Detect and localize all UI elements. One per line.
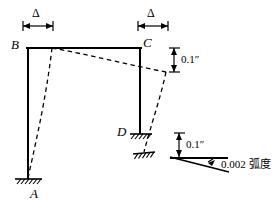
joint-label-a: A — [30, 187, 38, 200]
delta-left-arrow-end — [46, 23, 53, 29]
support-a-fixed — [15, 179, 42, 184]
delta-label-left: Δ — [32, 7, 40, 19]
settlement-c-arrow-up — [171, 48, 177, 55]
deformed-column-ab — [28, 48, 52, 178]
settlement-c-arrow-down — [171, 65, 177, 72]
original-frame-group — [27, 48, 141, 178]
delta-left-arrow-start — [23, 23, 30, 29]
frame-diagram-canvas — [0, 0, 278, 208]
dimension-settlement-d — [174, 133, 185, 157]
dimension-delta-right — [138, 21, 168, 31]
deformed-frame-group — [28, 48, 166, 178]
deformed-column-cd — [144, 72, 166, 152]
delta-right-arrow-end — [161, 23, 168, 29]
rotation-annotation-label: 0.002 弧度 — [221, 159, 271, 170]
settlement-label-d: 0.1″ — [186, 139, 204, 150]
support-d-displaced-baseline — [133, 152, 155, 154]
joint-label-b: B — [11, 38, 19, 51]
dimension-settlement-c — [169, 48, 180, 72]
dimension-delta-left — [23, 21, 53, 31]
settlement-d-arrow-down — [176, 150, 182, 157]
joint-label-d: D — [117, 125, 126, 138]
joint-label-c: C — [143, 36, 152, 49]
delta-label-right: Δ — [147, 7, 155, 19]
support-d-fixed-displaced — [133, 152, 155, 159]
structural-frame-figure: B C D A Δ Δ 0.1″ 0.1″ 0.002 弧度 — [0, 0, 278, 208]
settlement-d-arrow-up — [176, 133, 182, 140]
deformed-beam-bc — [52, 48, 166, 72]
settlement-label-c: 0.1″ — [181, 54, 199, 65]
delta-right-arrow-start — [138, 23, 145, 29]
